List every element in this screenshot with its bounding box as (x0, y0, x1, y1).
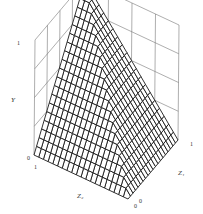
y-axis-label: Y (11, 97, 15, 104)
z1-tick-origin: 0 (139, 198, 142, 204)
z1-tick-far: 1 (190, 141, 193, 147)
z2-axis-label: Z₂ (77, 193, 83, 200)
z2-tick-origin: 0 (134, 203, 137, 209)
surface-plot (0, 0, 203, 214)
y-tick-bottom: 0 (27, 155, 30, 161)
y-tick-top: 1 (17, 40, 20, 46)
surface-mesh (34, 0, 178, 199)
z1-axis-label: Z₁ (178, 170, 184, 177)
z2-tick-far: 1 (34, 164, 37, 170)
